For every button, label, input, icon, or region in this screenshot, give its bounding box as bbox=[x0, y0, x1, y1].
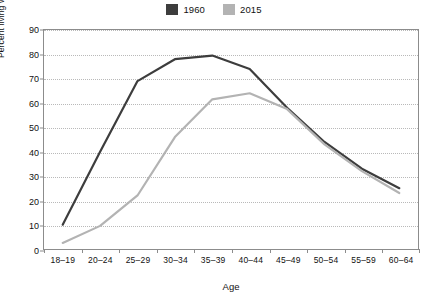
x-tick-label: 45–49 bbox=[276, 255, 301, 265]
x-tick-label: 25–29 bbox=[126, 255, 151, 265]
y-tick-label: 30 bbox=[29, 172, 44, 182]
y-axis-title: Percent living with at least one own chi… bbox=[0, 0, 6, 58]
y-tick-label: 80 bbox=[29, 50, 44, 60]
x-tick-label: 35–39 bbox=[201, 255, 226, 265]
series-layer bbox=[44, 30, 418, 249]
y-tick-label: 0 bbox=[34, 246, 44, 256]
x-tick-mark bbox=[194, 249, 195, 253]
x-tick-mark bbox=[307, 249, 308, 253]
x-tick-mark bbox=[119, 249, 120, 253]
x-tick-mark bbox=[232, 249, 233, 253]
x-tick-mark bbox=[157, 249, 158, 253]
line-chart: Percent living with at least one own chi… bbox=[0, 0, 428, 304]
y-tick-label: 40 bbox=[29, 148, 44, 158]
x-tick-mark bbox=[270, 249, 271, 253]
x-tick-mark bbox=[419, 249, 420, 253]
y-tick-label: 90 bbox=[29, 25, 44, 35]
plot-area: 0102030405060708090 18–1920–2425–2930–34… bbox=[43, 29, 419, 250]
x-tick-label: 55–59 bbox=[351, 255, 376, 265]
y-tick-label: 50 bbox=[29, 123, 44, 133]
x-tick-label: 40–44 bbox=[238, 255, 263, 265]
y-tick-label: 20 bbox=[29, 197, 44, 207]
x-tick-label: 20–24 bbox=[88, 255, 113, 265]
x-tick-label: 50–54 bbox=[314, 255, 339, 265]
x-tick-label: 18–19 bbox=[50, 255, 75, 265]
x-axis-title: Age bbox=[43, 281, 419, 292]
x-tick-mark bbox=[82, 249, 83, 253]
x-tick-mark bbox=[382, 249, 383, 253]
x-tick-label: 30–34 bbox=[163, 255, 188, 265]
x-tick-label: 60–64 bbox=[389, 255, 414, 265]
y-tick-label: 60 bbox=[29, 99, 44, 109]
series-line-2015 bbox=[63, 93, 400, 243]
series-line-1960 bbox=[63, 56, 400, 225]
y-tick-label: 70 bbox=[29, 74, 44, 84]
x-tick-mark bbox=[44, 249, 45, 253]
x-tick-mark bbox=[345, 249, 346, 253]
y-tick-label: 10 bbox=[29, 221, 44, 231]
